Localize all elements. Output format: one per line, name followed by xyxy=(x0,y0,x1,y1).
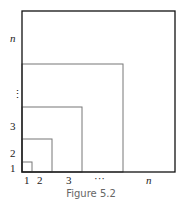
y-label-1: 1 xyxy=(10,162,16,174)
y-label-n: n xyxy=(10,32,16,44)
x-label-2: 2 xyxy=(37,174,43,185)
figure-caption: Figure 5.2 xyxy=(0,188,182,199)
square-k xyxy=(22,64,123,172)
y-label-2: 2 xyxy=(10,147,16,159)
x-label-n: n xyxy=(146,174,152,185)
y-label-dots: ⋮ xyxy=(12,88,23,100)
x-label-1: 1 xyxy=(24,174,30,185)
square-1 xyxy=(22,162,32,172)
square-n xyxy=(22,11,175,172)
x-label-3: 3 xyxy=(66,174,72,185)
y-label-3: 3 xyxy=(10,120,16,132)
nested-squares-diagram: 1 2 3 ⋮ n 1 2 3 ··· n xyxy=(0,0,182,185)
square-2 xyxy=(22,139,52,172)
x-label-dots: ··· xyxy=(94,172,105,184)
